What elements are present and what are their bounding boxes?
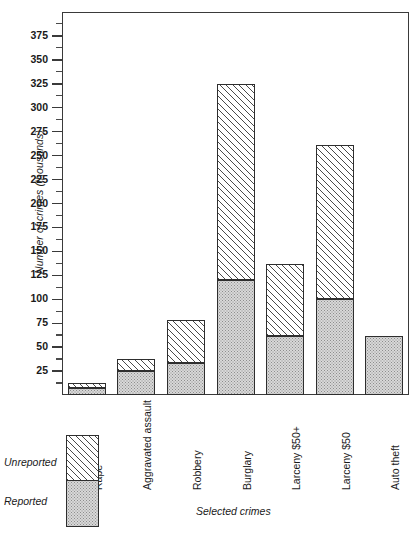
legend-label-reported: Reported: [4, 495, 47, 507]
bar-segment-reported[interactable]: [365, 336, 403, 395]
x-tick-label-burglary: Burglary: [241, 451, 253, 490]
bar-segment-reported[interactable]: [316, 299, 354, 395]
y-tick-label: 225: [30, 173, 48, 185]
legend-swatch-unreported: [66, 435, 99, 481]
legend-label-unreported: Unreported: [4, 456, 57, 468]
bar-segment-unreported[interactable]: [316, 145, 354, 299]
y-tick-mark: [52, 203, 62, 204]
bar-group[interactable]: [117, 359, 155, 395]
bar-group[interactable]: [217, 84, 255, 395]
bar-segment-unreported[interactable]: [167, 320, 205, 363]
y-tick-mark: [52, 179, 62, 180]
x-tick-label-larceny-50: Larceny $50: [340, 432, 352, 490]
bar-group[interactable]: [365, 336, 403, 395]
y-tick-mark: [52, 370, 62, 371]
y-tick-label: 75: [36, 316, 48, 328]
y-tick-label: 250: [30, 149, 48, 161]
y-tick-label: 125: [30, 268, 48, 280]
bar-segment-unreported[interactable]: [117, 359, 155, 371]
legend-swatch: [66, 435, 99, 527]
y-tick-label: 25: [36, 364, 48, 376]
bar-segment-reported[interactable]: [68, 388, 106, 395]
bar-group[interactable]: [167, 320, 205, 395]
y-tick-mark: [52, 83, 62, 84]
bar-segment-reported[interactable]: [217, 280, 255, 395]
bar-group[interactable]: [68, 383, 106, 395]
y-tick-label: 300: [30, 101, 48, 113]
y-tick-label: 200: [30, 197, 48, 209]
y-tick-mark: [52, 107, 62, 108]
x-tick-label-auto-theft: Auto theft: [389, 445, 401, 490]
x-axis-title: Selected crimes: [196, 505, 271, 517]
y-tick-mark: [52, 299, 62, 300]
bar-segment-reported[interactable]: [266, 336, 304, 395]
bar-group[interactable]: [316, 145, 354, 395]
x-tick-label-larceny-50: Larceny $50+: [290, 426, 302, 490]
y-tick-mark: [52, 275, 62, 276]
bar-group[interactable]: [266, 264, 304, 395]
y-tick-label: 325: [30, 77, 48, 89]
legend-swatch-reported: [66, 480, 99, 527]
y-tick-mark: [52, 227, 62, 228]
x-tick-label-robbery: Robbery: [191, 450, 203, 490]
bars-layer: [62, 12, 409, 395]
bar-segment-unreported[interactable]: [266, 264, 304, 336]
bar-segment-unreported[interactable]: [217, 84, 255, 280]
y-tick-mark: [52, 35, 62, 36]
y-tick-label: 50: [36, 340, 48, 352]
y-tick-mark: [52, 323, 62, 324]
y-tick-label: 100: [30, 292, 48, 304]
y-tick-label: 275: [30, 125, 48, 137]
legend: Unreported Reported: [0, 430, 120, 545]
y-tick-mark: [52, 59, 62, 60]
y-tick-label: 375: [30, 29, 48, 41]
bar-segment-reported[interactable]: [167, 363, 205, 395]
y-tick-label: 150: [30, 244, 48, 256]
y-tick-mark: [52, 251, 62, 252]
bar-segment-reported[interactable]: [117, 371, 155, 395]
y-tick-label: 175: [30, 220, 48, 232]
y-tick-mark: [52, 131, 62, 132]
y-tick-mark: [52, 346, 62, 347]
y-tick-mark: [52, 155, 62, 156]
x-tick-label-aggravated-assault: Aggravated assault: [141, 400, 153, 490]
y-tick-label: 350: [30, 53, 48, 65]
